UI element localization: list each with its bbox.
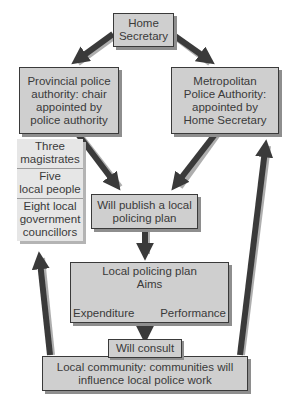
will-consult-label: Will consult — [116, 342, 174, 355]
arrow-home-to-metropolitan — [172, 34, 206, 58]
composition-1-line-2: magistrates — [17, 153, 83, 166]
composition-2-line-1: Five — [17, 170, 83, 183]
local-community-box: Local community: communities will influe… — [42, 356, 248, 391]
metropolitan-line-3: appointed by — [192, 101, 258, 114]
local-plan-performance: Performance — [160, 307, 226, 320]
provincial-line-2: authority: chair — [31, 88, 106, 101]
composition-3-line-3: councillors — [17, 226, 83, 239]
composition-2-line-2: local people — [17, 183, 83, 196]
local-community-line-1: Local community: communities will — [57, 361, 233, 374]
publish-plan-line-1: Will publish a local — [97, 199, 192, 212]
home-secretary-box: Home Secretary — [113, 13, 174, 47]
authority-composition-stack: Three magistrates Five local people Eigh… — [17, 139, 83, 241]
composition-local-people: Five local people — [17, 169, 83, 199]
composition-3-line-2: government — [17, 213, 83, 226]
publish-plan-box: Will publish a local policing plan — [91, 194, 198, 229]
local-plan-cycle-row: Expenditure Performance — [73, 307, 226, 320]
arrow-metropolitan-to-publish — [178, 133, 216, 182]
metropolitan-line-1: Metropolitan — [193, 75, 256, 88]
local-plan-aims: Aims — [137, 278, 163, 291]
arrow-home-to-provincial — [80, 34, 113, 58]
provincial-line-4: police authority — [30, 114, 107, 127]
composition-1-line-1: Three — [17, 140, 83, 153]
home-secretary-line-2: Secretary — [119, 30, 168, 43]
arrow-community-to-metropolitan — [240, 150, 265, 355]
provincial-authority-box: Provincial police authority: chair appoi… — [19, 67, 119, 134]
provincial-line-3: appointed by — [36, 101, 102, 114]
composition-magistrates: Three magistrates — [17, 139, 83, 169]
police-authority-diagram: Home Secretary Provincial police authori… — [0, 0, 292, 404]
home-secretary-line-1: Home — [128, 17, 159, 30]
provincial-line-1: Provincial police — [27, 75, 110, 88]
composition-councillors: Eight local government councillors — [17, 199, 83, 241]
local-plan-title: Local policing plan — [102, 265, 197, 278]
will-consult-box: Will consult — [108, 339, 182, 358]
metropolitan-line-2: Police Authority: — [184, 88, 266, 101]
publish-plan-line-2: policing plan — [113, 212, 177, 225]
metropolitan-line-4: Home Secretary — [183, 114, 266, 127]
local-policing-plan-box: Local policing plan Aims Expenditure Per… — [70, 262, 229, 323]
metropolitan-authority-box: Metropolitan Police Authority: appointed… — [171, 67, 279, 134]
local-community-line-2: influence local police work — [78, 374, 212, 387]
local-plan-expenditure: Expenditure — [73, 307, 134, 320]
composition-3-line-1: Eight local — [17, 200, 83, 213]
